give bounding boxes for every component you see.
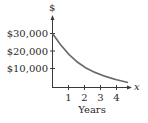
y-ticks: $30,000 $20,000 $10,000 [7,28,55,74]
x-tick-label: 2 [81,92,87,103]
x-tick-label: 1 [65,92,71,103]
x-axis-arrow-icon [127,86,132,90]
x-axis-symbol: x [134,81,140,92]
decay-curve [53,34,129,83]
x-tick-label: 3 [97,92,103,103]
x-tick-label: 4 [113,92,119,103]
y-tick-label: $30,000 [7,28,48,39]
x-axis-title: Years [77,104,106,115]
y-axis-arrow-icon [51,15,55,20]
decay-chart: $ x $30,000 $20,000 $10,000 1 2 3 4 Year… [0,0,148,123]
y-axis-label: $ [49,2,55,13]
y-tick-label: $10,000 [7,63,48,74]
y-tick-label: $20,000 [7,46,48,57]
